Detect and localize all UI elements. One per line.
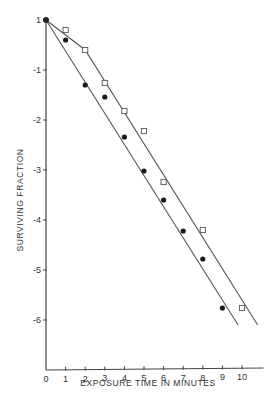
circle-marker bbox=[83, 82, 88, 87]
y-tick-label: -6 bbox=[33, 315, 41, 325]
survival-curve-chart: 0123456789101-1-2-3-4-5-6 EXPOSURE TIME … bbox=[0, 0, 275, 414]
y-tick-label: -5 bbox=[33, 265, 41, 275]
circle-marker bbox=[102, 94, 107, 99]
circle-marker bbox=[161, 197, 166, 202]
y-axis-title: SURVIVING FRACTION bbox=[15, 148, 25, 251]
square-marker bbox=[161, 179, 166, 184]
circle-marker bbox=[200, 256, 205, 261]
plot-area: 0123456789101-1-2-3-4-5-6 EXPOSURE TIME … bbox=[0, 0, 275, 414]
x-tick-label: 1 bbox=[63, 374, 68, 384]
origin-marker bbox=[43, 17, 49, 23]
y-tick-label: -4 bbox=[33, 215, 41, 225]
circle-marker bbox=[122, 134, 127, 139]
square-marker bbox=[63, 27, 68, 32]
fit-line bbox=[46, 20, 258, 325]
x-axis-line bbox=[46, 368, 264, 370]
y-tick-label: -2 bbox=[33, 115, 41, 125]
circle-marker bbox=[63, 37, 68, 42]
x-tick-label: 10 bbox=[237, 372, 247, 382]
x-tick-label: 9 bbox=[220, 372, 225, 382]
square-marker bbox=[141, 128, 146, 133]
circle-marker bbox=[181, 228, 186, 233]
circle-marker bbox=[141, 168, 146, 173]
square-marker bbox=[122, 108, 127, 113]
y-tick-label: -1 bbox=[33, 65, 41, 75]
square-marker bbox=[83, 47, 88, 52]
x-tick-label: 0 bbox=[43, 374, 48, 384]
square-marker bbox=[102, 80, 107, 85]
circle-marker bbox=[220, 305, 225, 310]
data-markers bbox=[43, 17, 244, 310]
axes: 0123456789101-1-2-3-4-5-6 bbox=[33, 15, 264, 384]
square-marker bbox=[239, 305, 244, 310]
fit-lines bbox=[46, 20, 258, 325]
x-axis-title: EXPOSURE TIME IN MINUTES bbox=[80, 378, 216, 388]
square-marker bbox=[200, 227, 205, 232]
y-tick-label: 1 bbox=[36, 15, 41, 25]
y-tick-label: -3 bbox=[33, 165, 41, 175]
